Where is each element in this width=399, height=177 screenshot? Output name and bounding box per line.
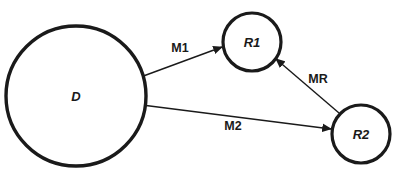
node-d-label: D: [71, 89, 81, 104]
edge-mr-line: [276, 59, 339, 113]
node-link-diagram: M1 M2 MR D R1 R2: [0, 0, 399, 177]
node-d[interactable]: D: [6, 26, 146, 166]
edge-m2-label: M2: [224, 119, 241, 133]
diagram-canvas-container: M1 M2 MR D R1 R2: [0, 0, 399, 177]
edge-m2[interactable]: M2: [142, 105, 331, 133]
node-r1[interactable]: R1: [223, 13, 281, 71]
node-group: D R1 R2: [6, 13, 390, 166]
node-r2[interactable]: R2: [332, 105, 390, 163]
edge-m1[interactable]: M1: [138, 41, 222, 78]
edge-mr-label: MR: [308, 72, 327, 86]
edge-mr[interactable]: MR: [276, 59, 339, 113]
node-r1-label: R1: [244, 35, 261, 50]
node-r2-label: R2: [353, 127, 370, 142]
edge-m1-label: M1: [171, 41, 188, 55]
